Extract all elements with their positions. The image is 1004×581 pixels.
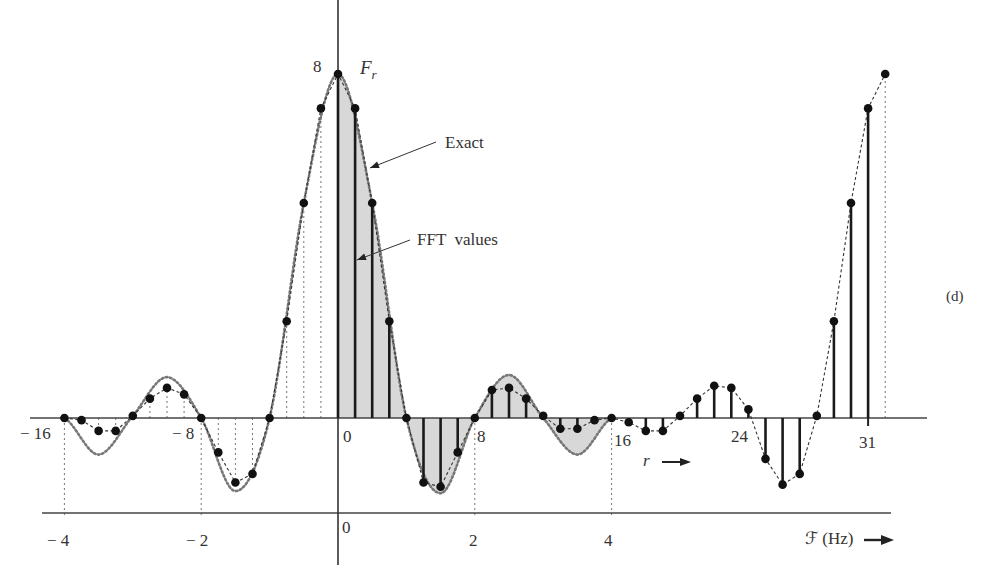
panel-label: (d) (946, 289, 964, 304)
r-axis-label-text: r (643, 451, 650, 470)
r-tick-31: 31 (859, 434, 876, 451)
r-tick-24: 24 (731, 428, 748, 445)
y-axis-label: Fr (360, 58, 377, 81)
hz-tick-minus2: − 2 (186, 532, 208, 549)
hz-tick-2: 2 (469, 532, 478, 549)
y-axis-label-main: F (360, 57, 372, 78)
r-tick-minus16: − 16 (20, 425, 51, 442)
y-axis-label-sub: r (372, 67, 377, 82)
hz-axis-label-text: ℱ (Hz) (805, 529, 853, 548)
r-tick-16: 16 (614, 432, 631, 449)
hz-tick-4: 4 (604, 532, 613, 549)
r-tick-0: 0 (343, 428, 352, 445)
r-tick-minus8: − 8 (172, 425, 194, 442)
r-axis-label: r (643, 452, 692, 469)
hz-axis-label: ℱ (Hz) (805, 530, 894, 547)
right-arrow-icon (662, 457, 692, 467)
y-peak-tick-label: 8 (313, 58, 322, 75)
hz-tick-0: 0 (342, 519, 351, 536)
hz-tick-minus4: − 4 (47, 532, 69, 549)
annotation-exact: Exact (445, 134, 484, 151)
fft-vs-exact-spectrum-chart (0, 0, 1004, 581)
annotation-fft-values: FFT values (417, 231, 498, 248)
axes (30, 0, 927, 565)
right-arrow-icon (864, 535, 894, 545)
r-tick-8: 8 (477, 428, 486, 445)
